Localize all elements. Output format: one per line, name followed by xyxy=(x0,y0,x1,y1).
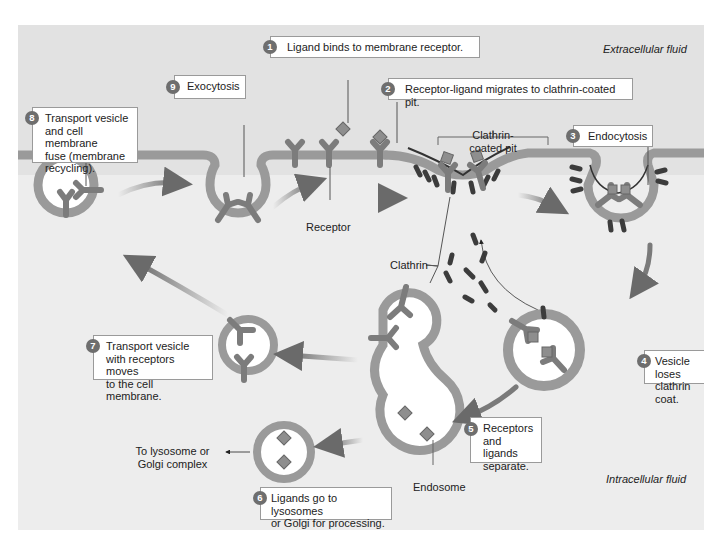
step-4-line-2: clathrin coat. xyxy=(655,380,704,405)
free-clathrin xyxy=(446,235,495,310)
coated-pit-line-2: coated pit xyxy=(458,142,528,155)
step-5-label: Receptors and ligands separate. xyxy=(470,417,542,463)
step-2-label: Receptor-ligand migrates to clathrin-coa… xyxy=(388,78,633,100)
step-8-label: Transport vesicle and cell membrane fuse… xyxy=(32,107,138,163)
coated-pit-label: Clathrin- coated pit xyxy=(458,129,528,154)
step-5-line-3: separate. xyxy=(483,460,535,473)
step-5-line-2: and ligands xyxy=(483,435,535,460)
step-7-line-1: Transport vesicle xyxy=(106,340,206,353)
coated-pit-line-1: Clathrin- xyxy=(458,129,528,142)
step-8-badge: 8 xyxy=(25,111,39,125)
step-5-badge: 5 xyxy=(464,422,478,436)
endosome-label: Endosome xyxy=(413,481,466,494)
free-ligand xyxy=(336,122,350,136)
lysosome-line-2: Golgi complex xyxy=(130,458,215,471)
step-7-line-2: with receptors moves xyxy=(106,353,206,378)
step-3-text: Endocytosis xyxy=(588,130,647,142)
step-3-badge: 3 xyxy=(566,129,580,143)
endosome xyxy=(371,287,460,465)
step-3-label: Endocytosis xyxy=(573,125,653,147)
step-8-line-2: and cell membrane xyxy=(45,125,131,150)
step-6-label: Ligands go to lysosomes or Golgi for pro… xyxy=(260,487,392,520)
step-8-line-4: recycling). xyxy=(45,162,131,175)
step-6-line-1: Ligands go to lysosomes xyxy=(271,492,385,517)
lysosome-line-1: To lysosome or xyxy=(130,445,215,458)
step-7-line-3: to the cell membrane. xyxy=(106,378,206,403)
diagram-artwork xyxy=(18,25,704,530)
step-4-badge: 4 xyxy=(637,354,651,368)
step-4-label: Vesicle loses clathrin coat. xyxy=(644,350,704,384)
step-9-text: Exocytosis xyxy=(187,80,240,92)
extracellular-fluid-label: Extracellular fluid xyxy=(603,43,687,56)
step-6-line-2: or Golgi for processing. xyxy=(271,517,385,530)
step-6-badge: 6 xyxy=(253,491,267,505)
step-8-line-3: fuse (membrane xyxy=(45,150,131,163)
step-1-text: Ligand binds to membrane receptor. xyxy=(287,41,463,53)
receptor-label: Receptor xyxy=(306,221,351,234)
step-9-badge: 9 xyxy=(166,80,180,94)
step-1-label: Ligand binds to membrane receptor. xyxy=(270,36,480,58)
step-8-line-1: Transport vesicle xyxy=(45,112,131,125)
clathrin-recycle-arrow xyxy=(481,240,538,310)
vesicle-7 xyxy=(222,319,274,380)
step-5-line-1: Receptors xyxy=(483,422,535,435)
clathrin-label: Clathrin xyxy=(390,259,428,272)
step-1-badge: 1 xyxy=(263,40,277,54)
step-9-label: Exocytosis xyxy=(174,75,246,99)
step-7-label: Transport vesicle with receptors moves t… xyxy=(93,335,213,380)
vesicle-4 xyxy=(508,308,580,386)
step-4-line-1: Vesicle loses xyxy=(655,355,704,380)
vesicle-6 xyxy=(257,425,311,479)
intracellular-fluid-label: Intracellular fluid xyxy=(606,473,686,486)
step-2-badge: 2 xyxy=(381,82,395,96)
to-lysosome-label: To lysosome or Golgi complex xyxy=(130,445,215,470)
step-7-badge: 7 xyxy=(86,339,100,353)
diagram-panel: Extracellular fluid Intracellular fluid … xyxy=(18,25,704,530)
